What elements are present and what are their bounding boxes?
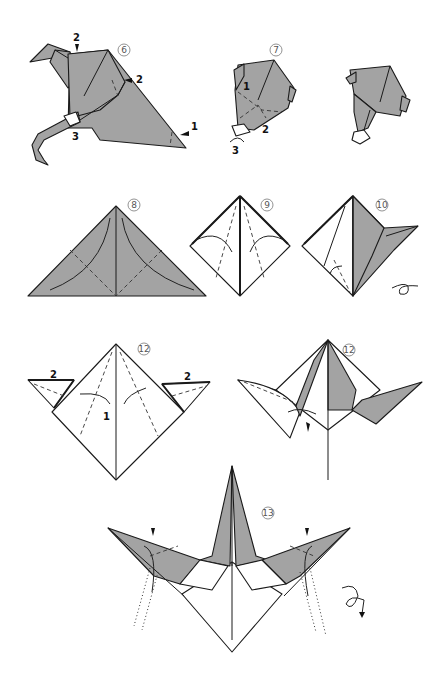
turn-over-icon xyxy=(392,284,418,294)
step-13-figure: 13 xyxy=(108,466,365,652)
step-13-number-badge: 13 xyxy=(262,507,274,519)
svg-text:7: 7 xyxy=(273,45,279,55)
svg-text:13: 13 xyxy=(262,508,273,518)
step-6-label-2a: 2 xyxy=(73,32,80,43)
step-11-label-2a: 2 xyxy=(50,369,57,380)
step-6-label-2b: 2 xyxy=(136,74,143,85)
svg-text:10: 10 xyxy=(376,200,388,210)
step-7-figure: 1 2 3 7 xyxy=(230,44,296,156)
step-7-result-figure xyxy=(346,66,410,144)
svg-text:12: 12 xyxy=(343,345,354,355)
step-6-label-3: 3 xyxy=(72,131,79,142)
step-11-number-badge: 12 xyxy=(138,343,150,355)
svg-text:9: 9 xyxy=(264,200,270,210)
step-7-number-badge: 7 xyxy=(270,44,282,56)
svg-text:12: 12 xyxy=(138,344,149,354)
svg-text:6: 6 xyxy=(121,45,127,55)
step-11-label-2b: 2 xyxy=(184,371,191,382)
step-10-number-badge: 10 xyxy=(376,199,388,211)
origami-diagram: 2 2 1 3 6 1 2 3 7 xyxy=(0,0,443,687)
svg-text:8: 8 xyxy=(131,200,137,210)
step-8-number-badge: 8 xyxy=(128,199,140,211)
turn-over-icon xyxy=(342,586,365,618)
step-11-figure: 2 2 1 12 xyxy=(28,343,210,480)
step-12-figure: 12 xyxy=(238,340,422,480)
step-6-label-1: 1 xyxy=(191,121,198,132)
step-9-number-badge: 9 xyxy=(261,199,273,211)
step-7-label-3: 3 xyxy=(232,145,239,156)
step-6-figure: 2 2 1 3 6 xyxy=(30,32,198,165)
step-6-number-badge: 6 xyxy=(118,44,130,56)
step-12-number-badge: 12 xyxy=(343,344,355,356)
step-7-label-1: 1 xyxy=(243,81,250,92)
step-11-label-1: 1 xyxy=(103,411,110,422)
step-7-label-2: 2 xyxy=(262,124,269,135)
step-10-figure: 10 xyxy=(302,196,418,296)
step-9-figure: 9 xyxy=(190,196,290,296)
step-8-figure: 8 xyxy=(28,199,206,296)
